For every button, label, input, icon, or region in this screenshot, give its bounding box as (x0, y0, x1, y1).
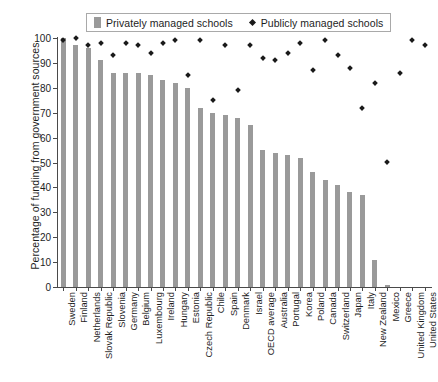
x-axis-label-united-kingdom: United Kingdom (416, 292, 426, 358)
bar-japan (347, 192, 352, 287)
y-axis-tick-mark (53, 212, 57, 213)
x-axis-label-korea: Korea (304, 292, 314, 317)
marker-slovak-republic (98, 40, 104, 46)
bar-germany (123, 73, 128, 287)
x-axis-label-united-states: United States (428, 292, 438, 348)
y-axis-tick-label: 0 (0, 282, 57, 293)
x-axis-tick-mark (213, 287, 214, 291)
marker-mexico (384, 160, 390, 166)
bar-denmark (235, 118, 240, 287)
x-axis-label-oecd-average: OECD average (266, 292, 276, 355)
y-axis-title: Percentage of funding from government so… (29, 31, 41, 281)
x-axis-tick-mark (225, 287, 226, 291)
bar-canada (323, 180, 328, 287)
x-axis-label-estonia: Estonia (191, 292, 201, 323)
x-axis-tick-mark (113, 287, 114, 291)
marker-united-states (422, 43, 428, 49)
x-axis-tick-mark (175, 287, 176, 291)
marker-czech-republic (197, 38, 203, 44)
bar-swatch-icon (94, 17, 101, 28)
y-axis-tick-mark (53, 287, 57, 288)
marker-spain (222, 43, 228, 49)
x-axis-label-japan: Japan (353, 292, 363, 317)
bar-spain (223, 115, 228, 287)
y-axis-tick-mark (53, 262, 57, 263)
x-axis-label-finland: Finland (79, 292, 89, 323)
x-axis-label-czech-republic: Czech Republic (204, 292, 214, 357)
x-axis-tick-mark (238, 287, 239, 291)
y-axis-tick-label: 30 (0, 207, 57, 218)
x-axis-tick-mark (126, 287, 127, 291)
marker-japan (347, 65, 353, 71)
x-axis-labels: SwedenFinlandNetherlandsSlovak RepublicS… (57, 292, 431, 382)
x-axis-tick-mark (412, 287, 413, 291)
y-axis-tick-label: 20 (0, 232, 57, 243)
bar-poland (310, 172, 315, 287)
y-axis-tick-label: 10 (0, 257, 57, 268)
marker-canada (322, 38, 328, 44)
marker-poland (310, 67, 316, 73)
bar-sweden (61, 38, 66, 287)
x-axis-tick-mark (313, 287, 314, 291)
x-axis-tick-mark (138, 287, 139, 291)
bar-korea (298, 158, 303, 287)
marker-germany (123, 40, 129, 46)
y-axis-tick-label: 90 (0, 57, 57, 68)
marker-israel (247, 43, 253, 49)
y-axis-tick-label: 50 (0, 157, 57, 168)
x-axis-tick-mark (88, 287, 89, 291)
x-axis-tick-mark (400, 287, 401, 291)
x-axis-label-israel: Israel (254, 292, 264, 315)
marker-luxembourg (148, 50, 154, 56)
x-axis-label-hungary: Hungary (179, 292, 189, 327)
bar-netherlands (86, 48, 91, 287)
chart-legend: Privately managed schools Publicly manag… (86, 13, 391, 32)
x-axis-label-sweden: Sweden (67, 292, 77, 326)
bar-estonia (185, 88, 190, 287)
y-axis-tick-label: 70 (0, 107, 57, 118)
x-axis-tick-mark (288, 287, 289, 291)
y-axis-tick-mark (53, 237, 57, 238)
x-axis-tick-mark (362, 287, 363, 291)
x-axis-label-germany: Germany (129, 292, 139, 330)
marker-finland (73, 35, 79, 41)
marker-belgium (135, 43, 141, 49)
y-axis-tick-mark (53, 163, 57, 164)
legend-label-public: Publicly managed schools (261, 17, 384, 29)
x-axis-tick-mark (63, 287, 64, 291)
y-axis-tick-mark (53, 138, 57, 139)
marker-slovenia (110, 52, 116, 58)
y-axis-tick-mark (53, 88, 57, 89)
x-axis-label-switzerland: Switzerland (341, 292, 351, 340)
marker-italy (359, 105, 365, 111)
y-axis-tick-label: 100 (0, 33, 57, 44)
y-axis-tick-mark (53, 38, 57, 39)
bar-slovak-republic (98, 60, 103, 287)
y-axis-tick-label: 80 (0, 82, 57, 93)
x-axis-label-australia: Australia (279, 292, 289, 328)
x-axis-tick-mark (275, 287, 276, 291)
bar-ireland (160, 80, 165, 287)
x-axis-label-ireland: Ireland (166, 292, 176, 321)
bar-chile (210, 113, 215, 287)
x-axis-tick-mark (375, 287, 376, 291)
bar-finland (73, 45, 78, 287)
y-axis-tick-mark (53, 187, 57, 188)
x-axis-label-greece: Greece (403, 292, 413, 323)
x-axis-label-canada: Canada (328, 292, 338, 325)
x-axis-label-poland: Poland (316, 292, 326, 321)
y-axis-tick-mark (53, 113, 57, 114)
x-axis-tick-mark (188, 287, 189, 291)
x-axis-label-denmark: Denmark (241, 292, 251, 330)
legend-label-private: Privately managed schools (106, 17, 233, 29)
x-axis-label-italy: Italy (366, 292, 376, 309)
x-axis-label-slovak-republic: Slovak Republic (104, 292, 114, 359)
bar-israel (248, 125, 253, 287)
legend-item-privately-managed-schools: Privately managed schools (94, 17, 233, 29)
x-axis-label-belgium: Belgium (141, 292, 151, 326)
x-axis-label-portugal: Portugal (291, 292, 301, 327)
x-axis-tick-mark (101, 287, 102, 291)
x-axis-tick-mark (163, 287, 164, 291)
x-axis-tick-mark (263, 287, 264, 291)
